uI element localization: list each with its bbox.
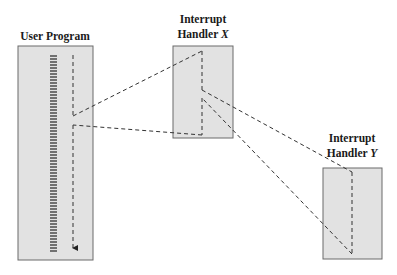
- handler-x-var: X: [221, 28, 229, 40]
- user-program-box: [18, 46, 93, 260]
- handler-y-line1: Interrupt: [312, 131, 392, 146]
- handler-x-title: Interrupt Handler X: [163, 12, 243, 42]
- handler-y-title: Interrupt Handler Y: [312, 131, 392, 161]
- handler-y-var: Y: [370, 147, 377, 159]
- handler-x-line2: Handler X: [163, 27, 243, 42]
- handler-y-prefix: Handler: [327, 147, 371, 159]
- user-program-title: User Program: [10, 29, 100, 44]
- user-program-label: User Program: [20, 30, 90, 42]
- handler-y-line2: Handler Y: [312, 146, 392, 161]
- handler-x-line1: Interrupt: [163, 12, 243, 27]
- handler-x-box: [173, 46, 233, 138]
- handler-x-prefix: Handler: [177, 28, 221, 40]
